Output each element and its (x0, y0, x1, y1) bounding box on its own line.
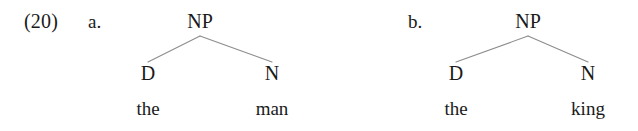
syntax-tree-figure: (20) a. NP D N the man b. NP D N (0, 0, 638, 131)
tree-node-root-a: NP (187, 10, 213, 32)
tree-node-noun-a: N (265, 62, 279, 84)
tree-a: NP D N the man (80, 0, 360, 131)
tree-node-root-b: NP (515, 10, 541, 32)
tree-leaf-noun-a: man (256, 98, 289, 119)
branch-left-b (456, 36, 528, 62)
tree-leaf-determiner-b: the (444, 98, 467, 119)
branch-right-a (200, 36, 272, 62)
subexample-a: a. NP D N the man (80, 0, 360, 131)
tree-b: NP D N the king (400, 0, 638, 131)
tree-leaf-determiner-a: the (136, 98, 159, 119)
example-number: (20) (24, 10, 58, 32)
subexample-b: b. NP D N the king (400, 0, 638, 131)
branch-left-a (148, 36, 200, 62)
tree-node-noun-b: N (581, 62, 595, 84)
tree-node-determiner-a: D (141, 62, 155, 84)
branch-right-b (528, 36, 588, 62)
tree-node-determiner-b: D (449, 62, 463, 84)
tree-leaf-noun-b: king (571, 98, 605, 119)
tree-branches-a (80, 0, 360, 131)
